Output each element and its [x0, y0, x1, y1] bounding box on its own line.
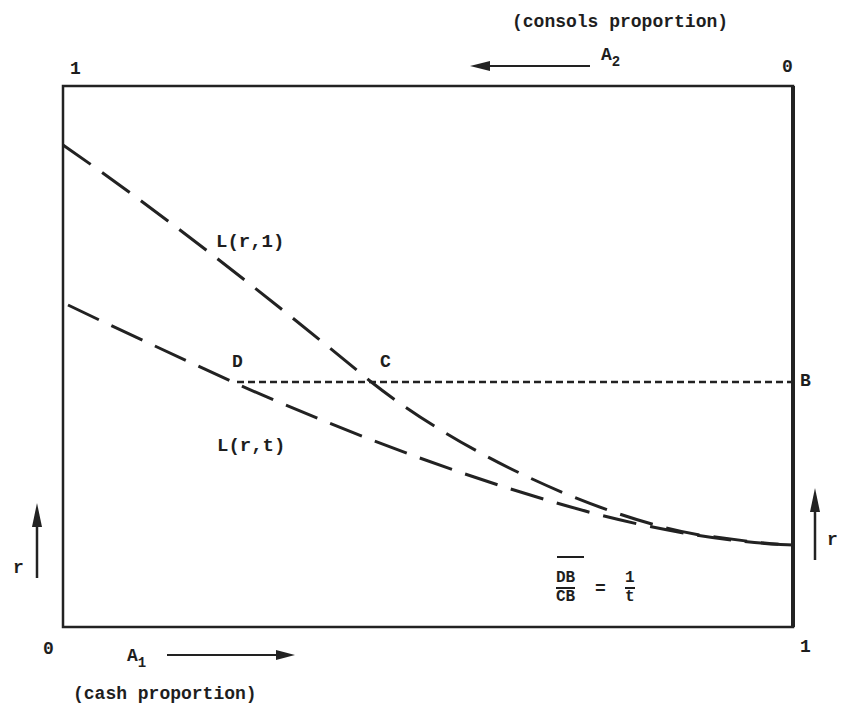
left-axis-label: r [13, 559, 24, 577]
curve-label-l-r-1: L(r,1) [216, 233, 284, 252]
equation-rhs-denominator: t [625, 589, 635, 605]
diagram-canvas [0, 0, 850, 722]
a1-arrow-head-icon [276, 650, 295, 660]
equation-rhs-fraction: 1 t [625, 570, 635, 605]
equation-equals: = [595, 580, 606, 598]
point-label-d: D [232, 353, 243, 371]
top-right-tick: 0 [782, 58, 793, 76]
equation-numerator: DB [556, 570, 575, 589]
right-axis-label: r [827, 531, 838, 549]
equation-overline [557, 556, 584, 558]
equation-denominator: CB [556, 589, 575, 605]
right-r-arrow-head-icon [810, 488, 820, 512]
curve-label-l-r-t: L(r,t) [217, 437, 285, 456]
equation-lhs-fraction: DB CB [556, 570, 575, 605]
top-axis-variable: A2 [601, 46, 620, 69]
bottom-left-tick: 0 [43, 640, 54, 658]
top-axis-caption: (consols proportion) [512, 13, 728, 31]
bottom-right-tick: 1 [800, 638, 811, 656]
a2-arrow-head-icon [470, 61, 490, 71]
top-left-tick: 1 [70, 60, 81, 78]
plot-frame [63, 86, 793, 627]
bottom-axis-caption: (cash proportion) [73, 685, 257, 703]
point-label-b: B [800, 372, 811, 390]
curve-l-r-1 [63, 145, 793, 545]
left-r-arrow-head-icon [32, 503, 42, 527]
equation-rhs-numerator: 1 [625, 570, 635, 589]
bottom-axis-variable: A1 [127, 647, 146, 670]
point-label-c: C [380, 353, 391, 371]
